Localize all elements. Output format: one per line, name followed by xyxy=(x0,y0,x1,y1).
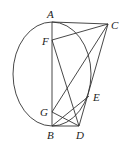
label-g: G xyxy=(40,107,48,118)
segment-fd xyxy=(52,40,79,126)
label-e: E xyxy=(93,92,100,103)
geometry-diagram: A C F G B D E xyxy=(0,0,127,150)
label-b: B xyxy=(47,130,54,141)
label-d: D xyxy=(76,130,84,141)
diagram-canvas xyxy=(0,0,127,150)
label-a: A xyxy=(47,9,54,20)
segment-cd xyxy=(79,24,108,126)
label-f: F xyxy=(42,36,49,47)
label-c: C xyxy=(111,20,118,31)
